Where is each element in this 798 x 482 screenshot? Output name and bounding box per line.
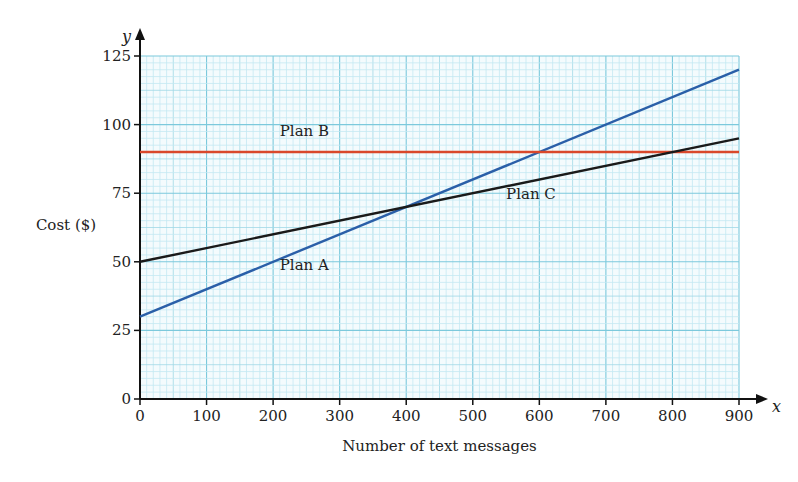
x-axis-arrow-icon bbox=[756, 394, 768, 404]
x-axis-symbol: x bbox=[772, 397, 781, 416]
y-tick-label: 125 bbox=[102, 47, 131, 65]
y-axis-label: Cost ($) bbox=[36, 216, 96, 234]
x-tick-label: 400 bbox=[392, 407, 421, 425]
x-tick-label: 800 bbox=[658, 407, 687, 425]
line-chart: xy01002003004005006007008009000255075100… bbox=[0, 0, 798, 482]
y-tick-label: 75 bbox=[112, 184, 131, 202]
x-axis-label: Number of text messages bbox=[342, 437, 537, 455]
series-label-plan-c: Plan C bbox=[506, 185, 556, 203]
y-tick-label: 0 bbox=[121, 390, 131, 408]
x-tick-label: 700 bbox=[592, 407, 621, 425]
series-label-plan-a: Plan A bbox=[280, 256, 329, 274]
y-tick-label: 25 bbox=[112, 321, 131, 339]
y-tick-label: 100 bbox=[102, 116, 131, 134]
series-label-plan-b: Plan B bbox=[280, 122, 329, 140]
y-tick-label: 50 bbox=[112, 253, 131, 271]
chart-stage: xy01002003004005006007008009000255075100… bbox=[0, 0, 798, 482]
x-tick-label: 500 bbox=[458, 407, 487, 425]
x-tick-label: 200 bbox=[259, 407, 288, 425]
y-axis-symbol: y bbox=[121, 27, 132, 46]
x-tick-label: 900 bbox=[725, 407, 754, 425]
x-tick-label: 600 bbox=[525, 407, 554, 425]
x-tick-label: 300 bbox=[325, 407, 354, 425]
x-tick-label: 100 bbox=[192, 407, 221, 425]
y-axis-arrow-icon bbox=[135, 28, 145, 40]
x-tick-label: 0 bbox=[135, 407, 145, 425]
